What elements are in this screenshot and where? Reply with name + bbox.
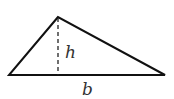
triangle xyxy=(9,17,165,75)
base-label: b xyxy=(82,79,93,99)
height-label: h xyxy=(65,42,76,62)
triangle-diagram: h b xyxy=(0,0,174,99)
